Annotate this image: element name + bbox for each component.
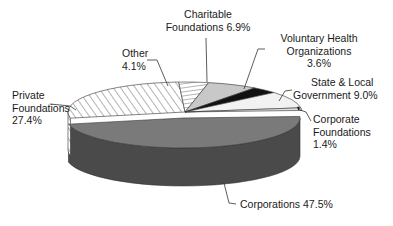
label-private-foundations: Private Foundations 27.4% — [12, 89, 70, 127]
label-line: 4.1% — [122, 60, 148, 73]
label-line: Corporations 47.5% — [240, 198, 333, 211]
label-line: Other — [122, 47, 148, 60]
label-line: Foundations 6.9% — [163, 21, 253, 34]
label-line: Organizations — [269, 45, 369, 58]
label-voluntary-health: Voluntary Health Organizations 3.6% — [269, 32, 369, 70]
leader-other — [147, 60, 168, 86]
label-corporate-foundations: Corporate Foundations 1.4% — [313, 113, 371, 151]
label-other: Other 4.1% — [122, 47, 148, 72]
label-line: Foundations — [12, 102, 70, 115]
pie-slices — [68, 82, 302, 186]
label-line: 1.4% — [313, 138, 371, 151]
label-line: Foundations — [313, 126, 371, 139]
label-line: 27.4% — [12, 114, 70, 127]
label-line: 3.6% — [269, 57, 369, 70]
label-line: Charitable — [163, 8, 253, 21]
label-line: Private — [12, 89, 70, 102]
label-line: Voluntary Health — [269, 32, 369, 45]
label-corporations: Corporations 47.5% — [240, 198, 333, 211]
slice-private-foundations — [68, 82, 185, 118]
label-line: Corporate — [313, 113, 371, 126]
label-line: Government 9.0% — [293, 89, 378, 102]
label-charitable-foundations: Charitable Foundations 6.9% — [163, 8, 253, 33]
leader-corporations — [224, 183, 236, 204]
leader-voluntary — [244, 49, 265, 89]
leader-charitable — [206, 38, 207, 82]
label-line: State & Local — [299, 76, 378, 89]
dot — [298, 108, 300, 110]
label-state-local: State & Local Government 9.0% — [299, 76, 378, 101]
leader-corpfound — [300, 110, 311, 121]
